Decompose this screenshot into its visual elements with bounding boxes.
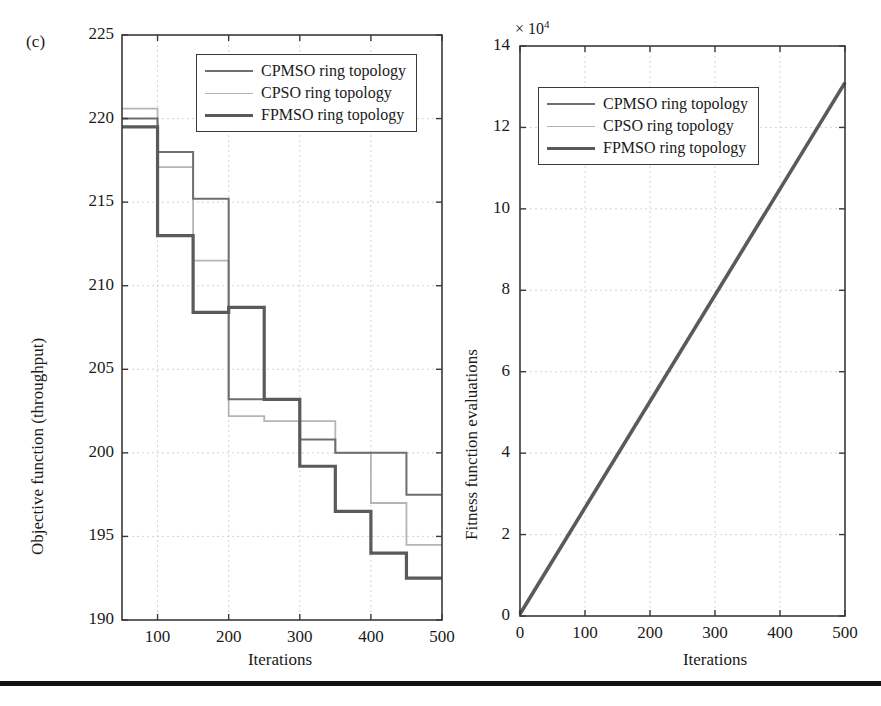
y-tick-label: 205 (58, 358, 114, 378)
left-legend-swatch-icon (205, 114, 253, 117)
right-legend-swatch-icon (547, 147, 595, 150)
right-legend-row: CPSO ring topology (547, 115, 748, 137)
x-tick-label: 300 (270, 627, 330, 647)
y-tick-label: 210 (58, 275, 114, 295)
right-y-exponent-label: × 104 (515, 18, 550, 38)
right-x-axis-title: Iterations (615, 650, 815, 670)
left-legend-label: CPSO ring topology (261, 84, 392, 102)
x-tick-label: 400 (750, 623, 810, 643)
y-tick-label: 215 (58, 191, 114, 211)
left-y-axis-title: Objective function (throughput) (28, 338, 48, 555)
right-legend-swatch-icon (547, 126, 595, 127)
y-tick-label: 225 (58, 24, 114, 44)
y-tick-label: 6 (458, 361, 510, 381)
left-x-axis-title: Iterations (180, 650, 380, 670)
y-tick-label: 14 (458, 35, 510, 55)
y-tick-label: 195 (58, 525, 114, 545)
x-tick-label: 200 (620, 623, 680, 643)
figure-bottom-rule (0, 681, 881, 686)
y-tick-label: 0 (458, 605, 510, 625)
left-legend-swatch-icon (205, 70, 253, 72)
x-tick-label: 200 (199, 627, 259, 647)
right-legend-row: FPMSO ring topology (547, 137, 748, 159)
y-tick-label: 12 (458, 116, 510, 136)
left-legend-label: FPMSO ring topology (261, 106, 404, 124)
left-legend-row: FPMSO ring topology (205, 104, 406, 126)
x-tick-label: 400 (341, 627, 401, 647)
right-legend-row: CPMSO ring topology (547, 93, 748, 115)
series-line-fpmso (122, 127, 442, 578)
panel-label-c: (c) (26, 32, 45, 52)
right-legend-swatch-icon (547, 103, 595, 105)
x-tick-label: 100 (555, 623, 615, 643)
x-tick-label: 500 (815, 623, 875, 643)
left-legend-swatch-icon (205, 93, 253, 94)
x-tick-label: 100 (128, 627, 188, 647)
right-legend-label: CPSO ring topology (603, 117, 734, 135)
right-legend-label: CPMSO ring topology (603, 95, 748, 113)
y-tick-label: 10 (458, 198, 510, 218)
right-y-exponent-base: × 10 (515, 20, 544, 37)
series-line-cpmso (122, 119, 442, 495)
y-tick-label: 220 (58, 108, 114, 128)
y-tick-label: 190 (58, 609, 114, 629)
right-legend: CPMSO ring topologyCPSO ring topologyFPM… (538, 87, 759, 165)
y-tick-label: 200 (58, 442, 114, 462)
right-y-exponent-power: 4 (544, 18, 550, 30)
chart-panel-right: × 104 Fitness function evaluations Itera… (450, 0, 881, 690)
left-legend-row: CPMSO ring topology (205, 60, 406, 82)
y-tick-label: 4 (458, 442, 510, 462)
chart-panel-left: (c) Objective function (throughput) Iter… (0, 0, 460, 690)
right-legend-label: FPMSO ring topology (603, 139, 746, 157)
figure-container: (c) Objective function (throughput) Iter… (0, 0, 881, 706)
left-legend: CPMSO ring topologyCPSO ring topologyFPM… (196, 54, 417, 132)
left-legend-label: CPMSO ring topology (261, 62, 406, 80)
series-line-cpso (122, 109, 442, 545)
x-tick-label: 300 (685, 623, 745, 643)
left-legend-row: CPSO ring topology (205, 82, 406, 104)
y-tick-label: 8 (458, 279, 510, 299)
x-tick-label: 0 (490, 623, 550, 643)
y-tick-label: 2 (458, 524, 510, 544)
